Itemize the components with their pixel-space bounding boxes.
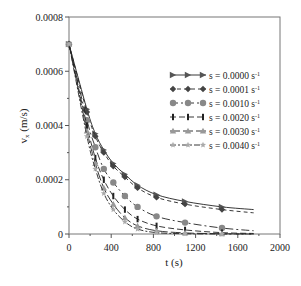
y-tick-label: 0: [58, 229, 63, 240]
legend-label-sup: -1: [255, 99, 260, 105]
legend: s = 0.0000 s-1s = 0.0001 s-1s = 0.0010 s…: [170, 71, 260, 151]
y-tick-label: 0.0006: [36, 66, 64, 77]
data-point-marker: [124, 206, 126, 212]
x-tick-label: 0: [67, 242, 72, 253]
legend-label-sup: -1: [255, 85, 260, 91]
data-point-marker: [92, 144, 98, 150]
legend-label: s = 0.0000 s-1: [209, 71, 260, 81]
data-point-marker: [103, 177, 105, 183]
data-point-marker: [122, 193, 128, 199]
x-tick-label: 1200: [186, 242, 206, 253]
data-point-marker: [170, 72, 176, 78]
legend-label-text: s = 0.0030 s: [209, 127, 255, 137]
y-axis-title-unit: (m/s): [17, 108, 30, 134]
data-point-marker: [187, 114, 189, 120]
legend-label-text: s = 0.0000 s: [209, 71, 255, 81]
data-point-marker: [110, 179, 116, 185]
data-point-marker: [182, 219, 188, 225]
data-point-marker: [110, 201, 116, 207]
y-axis-title: vx (m/s): [17, 108, 31, 143]
y-tick-label: 0.0008: [36, 12, 64, 23]
data-point-marker: [185, 100, 191, 106]
legend-label: s = 0.0001 s-1: [209, 85, 260, 95]
data-point-marker: [200, 86, 206, 92]
data-point-marker: [200, 100, 206, 106]
data-point-marker: [112, 193, 114, 199]
legend-label: s = 0.0040 s-1: [209, 141, 260, 151]
legend-item: s = 0.0001 s-1: [170, 85, 260, 95]
data-point-marker: [153, 213, 159, 219]
y-tick-label: 0.0004: [36, 120, 64, 131]
plot-border: [69, 17, 280, 234]
legend-label-sup: -1: [255, 127, 260, 133]
legend-item: s = 0.0040 s-1: [170, 141, 260, 151]
x-tick-label: 2000: [270, 242, 290, 253]
legend-label: s = 0.0020 s-1: [209, 113, 260, 123]
y-tick-label: 0.0002: [36, 174, 64, 185]
legend-label-sup: -1: [255, 113, 260, 119]
chart: 0400800120016002000 00.00020.00040.00060…: [0, 0, 301, 286]
legend-item: s = 0.0020 s-1: [170, 113, 260, 123]
data-point-marker: [101, 190, 107, 196]
legend-label-text: s = 0.0001 s: [209, 85, 255, 95]
data-point-marker: [92, 166, 98, 172]
x-tick-label: 400: [104, 242, 119, 253]
legend-label: s = 0.0030 s-1: [209, 127, 260, 137]
data-point-marker: [92, 160, 98, 166]
legend-label-sup: -1: [255, 141, 260, 147]
series-0: [66, 41, 254, 210]
legend-label: s = 0.0010 s-1: [209, 99, 260, 109]
data-point-marker: [202, 114, 204, 120]
legend-label-text: s = 0.0040 s: [209, 141, 255, 151]
y-axis: 00.00020.00040.00060.0008: [36, 12, 70, 240]
x-axis: 0400800120016002000: [67, 234, 291, 253]
data-point-marker: [172, 114, 174, 120]
x-tick-label: 1600: [228, 242, 248, 253]
data-point-marker: [101, 166, 107, 172]
data-point-marker: [170, 86, 176, 92]
data-point-marker: [185, 86, 191, 92]
data-point-marker: [200, 72, 206, 78]
data-point-marker: [170, 142, 176, 148]
data-point-marker: [200, 142, 206, 148]
x-tick-label: 800: [146, 242, 161, 253]
legend-label-text: s = 0.0020 s: [209, 113, 255, 123]
legend-item: s = 0.0000 s-1: [170, 71, 260, 81]
x-axis-title: t (s): [165, 256, 183, 269]
plot-frame: [69, 17, 280, 234]
legend-label-sup: -1: [255, 71, 260, 77]
data-point-marker: [170, 100, 176, 106]
data-point-marker: [134, 204, 140, 210]
legend-item: s = 0.0030 s-1: [170, 127, 260, 137]
data-point-marker: [185, 142, 191, 148]
legend-item: s = 0.0010 s-1: [170, 99, 260, 109]
legend-label-text: s = 0.0010 s: [209, 99, 255, 109]
data-point-marker: [185, 72, 191, 78]
data-point-marker: [137, 216, 139, 222]
